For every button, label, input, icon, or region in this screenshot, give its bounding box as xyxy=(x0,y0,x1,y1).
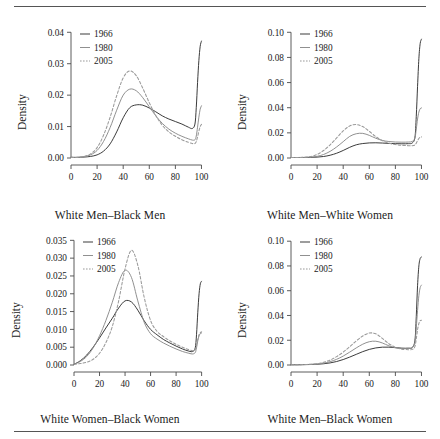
panel-white-men-white-women: Density 0.000.020.040.060.080.1002040608… xyxy=(220,12,440,223)
panel-3-plot: 0.000.020.040.060.080.100204060801001966… xyxy=(220,223,440,407)
svg-text:40: 40 xyxy=(120,379,130,389)
svg-text:20: 20 xyxy=(312,172,322,182)
footer-rule xyxy=(14,431,426,432)
svg-text:20: 20 xyxy=(312,379,322,389)
svg-text:0.10: 0.10 xyxy=(268,28,285,38)
svg-text:2005: 2005 xyxy=(97,264,116,274)
panel-2-xlabel: White Women–Black Women xyxy=(0,413,220,425)
svg-text:0.04: 0.04 xyxy=(48,28,65,38)
svg-text:100: 100 xyxy=(194,172,208,182)
svg-text:1980: 1980 xyxy=(314,43,333,53)
svg-text:2005: 2005 xyxy=(314,56,333,66)
panel-2-plot: 0.0000.0050.0100.0150.0200.0250.0300.035… xyxy=(0,223,220,407)
svg-text:0: 0 xyxy=(289,379,294,389)
svg-text:0.01: 0.01 xyxy=(48,122,65,132)
svg-text:0.08: 0.08 xyxy=(268,53,285,63)
panel-3-xlabel: White Men–Black Women xyxy=(220,413,440,425)
svg-text:0.010: 0.010 xyxy=(46,325,67,335)
svg-text:1980: 1980 xyxy=(314,251,333,261)
svg-text:100: 100 xyxy=(414,172,428,182)
panel-white-men-black-women: Density 0.000.020.040.060.080.1002040608… xyxy=(220,223,440,427)
svg-text:0.015: 0.015 xyxy=(46,307,67,317)
svg-text:1966: 1966 xyxy=(94,29,113,39)
svg-text:40: 40 xyxy=(339,379,349,389)
panel-2-ylabel: Density xyxy=(10,302,22,338)
svg-text:0.02: 0.02 xyxy=(268,336,285,346)
svg-text:2005: 2005 xyxy=(314,264,333,274)
svg-text:0.025: 0.025 xyxy=(46,271,67,281)
svg-text:0.04: 0.04 xyxy=(268,311,285,321)
svg-text:1966: 1966 xyxy=(97,237,116,247)
svg-text:0.00: 0.00 xyxy=(268,360,285,370)
svg-text:0.02: 0.02 xyxy=(268,128,285,138)
svg-text:0: 0 xyxy=(72,379,77,389)
svg-text:0.03: 0.03 xyxy=(48,59,65,69)
svg-text:0.00: 0.00 xyxy=(48,153,65,163)
svg-text:40: 40 xyxy=(339,172,349,182)
svg-text:0.06: 0.06 xyxy=(268,78,285,88)
svg-text:0.08: 0.08 xyxy=(268,261,285,271)
svg-text:60: 60 xyxy=(365,379,375,389)
svg-text:60: 60 xyxy=(145,172,155,182)
svg-text:60: 60 xyxy=(365,172,375,182)
svg-text:0.02: 0.02 xyxy=(48,90,65,100)
svg-text:80: 80 xyxy=(391,379,401,389)
svg-text:0.020: 0.020 xyxy=(46,289,67,299)
svg-text:0.04: 0.04 xyxy=(268,103,285,113)
svg-text:1980: 1980 xyxy=(94,43,113,53)
panel-1-ylabel: Density xyxy=(236,94,248,130)
svg-text:1966: 1966 xyxy=(314,29,333,39)
svg-text:100: 100 xyxy=(195,379,209,389)
svg-text:60: 60 xyxy=(146,379,156,389)
panel-white-men-black-men: Density 0.000.010.020.030.04020406080100… xyxy=(0,12,220,223)
svg-text:80: 80 xyxy=(391,172,401,182)
panel-white-women-black-women: Density 0.0000.0050.0100.0150.0200.0250.… xyxy=(0,223,220,427)
svg-text:0.06: 0.06 xyxy=(268,286,285,296)
svg-text:0: 0 xyxy=(69,172,74,182)
panel-0-ylabel: Density xyxy=(16,94,28,130)
figure-panel-grid: Density 0.000.010.020.030.04020406080100… xyxy=(0,12,440,427)
panel-1-xlabel: White Men–White Women xyxy=(220,209,440,221)
header-rule xyxy=(14,6,426,7)
svg-text:2005: 2005 xyxy=(94,56,113,66)
svg-text:80: 80 xyxy=(171,172,181,182)
svg-text:0.10: 0.10 xyxy=(268,236,285,246)
svg-text:40: 40 xyxy=(119,172,129,182)
panel-3-ylabel: Density xyxy=(236,302,248,338)
svg-text:0.00: 0.00 xyxy=(268,153,285,163)
svg-text:1980: 1980 xyxy=(97,251,116,261)
panel-1-plot: 0.000.020.040.060.080.100204060801001966… xyxy=(220,12,440,202)
svg-text:0: 0 xyxy=(289,172,294,182)
svg-text:80: 80 xyxy=(171,379,181,389)
svg-text:0.030: 0.030 xyxy=(46,253,67,263)
svg-text:20: 20 xyxy=(95,379,105,389)
svg-text:100: 100 xyxy=(414,379,428,389)
svg-text:0.035: 0.035 xyxy=(46,236,67,246)
panel-0-plot: 0.000.010.020.030.0402040608010019661980… xyxy=(0,12,220,202)
svg-text:0.005: 0.005 xyxy=(46,342,67,352)
panel-0-xlabel: White Men–Black Men xyxy=(0,209,220,221)
svg-text:20: 20 xyxy=(92,172,102,182)
svg-text:1966: 1966 xyxy=(314,237,333,247)
svg-text:0.000: 0.000 xyxy=(46,360,67,370)
